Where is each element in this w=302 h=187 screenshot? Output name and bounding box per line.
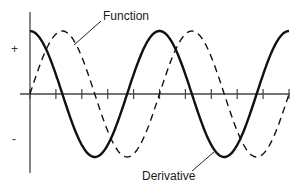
derivative-label: Derivative: [142, 169, 196, 183]
function-derivative-diagram: + - Function Derivative: [0, 0, 302, 187]
axes: [20, 12, 290, 173]
function-leader-line: [74, 21, 101, 45]
function-label: Function: [103, 9, 149, 23]
plus-sign-label: +: [11, 42, 18, 56]
minus-sign-label: -: [12, 132, 16, 146]
